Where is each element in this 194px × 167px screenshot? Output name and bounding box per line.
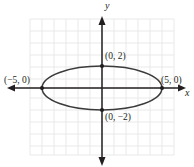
point-label-top-vertex: (0, 2) — [105, 52, 126, 62]
x-axis-label: x — [185, 88, 189, 98]
vertex-marker-top — [100, 64, 104, 68]
vertex-marker-right — [160, 86, 164, 90]
vertex-marker-bottom — [100, 108, 104, 112]
point-label-bottom-vertex: (0, −2) — [105, 113, 131, 123]
ellipse-graph-figure: (−5, 0) (5, 0) (0, 2) (0, −2) y x — [0, 0, 194, 167]
x-axis-left-arrowhead — [7, 85, 15, 92]
y-axis-bottom-arrowhead — [99, 157, 106, 166]
y-axis — [99, 16, 106, 166]
point-label-left-vertex: (−5, 0) — [4, 76, 30, 86]
vertex-marker-left — [40, 86, 44, 90]
x-axis — [7, 85, 186, 92]
y-axis-top-arrowhead — [99, 16, 106, 25]
point-label-right-vertex: (5, 0) — [161, 76, 182, 86]
y-axis-label: y — [105, 1, 109, 11]
